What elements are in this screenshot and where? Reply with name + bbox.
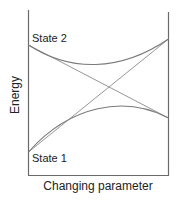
energy-level-diagram: State 2 State 1 Energy Changing paramete… [0,0,181,200]
y-axis-label: Energy [8,76,22,114]
adiabatic-lower-curve [29,106,169,152]
state-2-label: State 2 [32,32,67,44]
x-axis-label: Changing parameter [43,179,152,193]
state-1-label: State 1 [32,152,67,164]
